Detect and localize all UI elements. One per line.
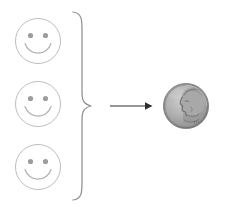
figure-canvas: LIBERTY LIBERTY (0, 0, 225, 211)
us-dime-coin: LIBERTY LIBERTY (0, 0, 225, 211)
